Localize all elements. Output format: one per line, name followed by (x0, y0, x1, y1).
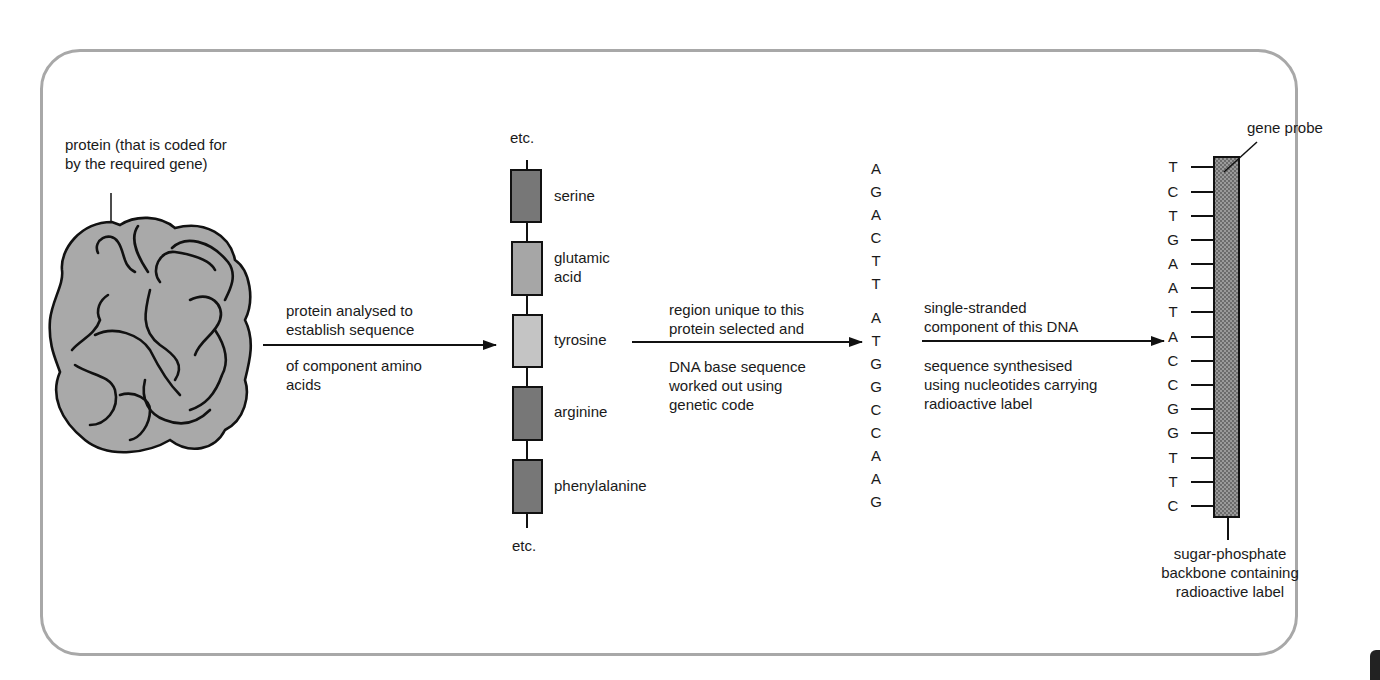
step2-below-line: worked out using (669, 376, 806, 395)
step1-above-line: establish sequence (286, 320, 414, 339)
dna-base: G (866, 354, 886, 374)
step2-below-line: genetic code (669, 395, 806, 414)
amino-acid-chain (511, 160, 542, 528)
residue-label-phenylalanine: phenylalanine (554, 476, 647, 495)
dna-base: G (866, 492, 886, 512)
chain-bottom-etc: etc. (512, 536, 536, 555)
backbone-label-line: radioactive label (1145, 582, 1315, 601)
residue-label-serine: serine (554, 186, 595, 205)
probe-base: A (1163, 254, 1183, 274)
step1-below-line: of component amino (286, 356, 422, 375)
step3-label-above: single-stranded component of this DNA (924, 298, 1078, 336)
step2-label-below: DNA base sequence worked out using genet… (669, 357, 806, 414)
probe-base: T (1163, 472, 1183, 492)
step3-label-below: sequence synthesised using nucleotides c… (924, 356, 1097, 413)
probe-base: G (1163, 230, 1183, 250)
dna-base: A (866, 205, 886, 225)
step3-above-line: component of this DNA (924, 317, 1078, 336)
dna-base: C (866, 228, 886, 248)
residue-label-glutamic-acid: glutamic acid (554, 248, 610, 286)
probe-base: T (1163, 206, 1183, 226)
backbone-label-line: backbone containing (1145, 563, 1315, 582)
step2-below-line: DNA base sequence (669, 357, 806, 376)
protein-label-line: by the required gene) (65, 154, 227, 173)
protein-label: protein (that is coded for by the requir… (65, 135, 227, 173)
step1-below-line: acids (286, 375, 422, 394)
probe-base: C (1163, 375, 1183, 395)
protein-label-line: protein (that is coded for (65, 135, 227, 154)
gene-probe-label: gene probe (1247, 118, 1323, 137)
step2-label-above: region unique to this protein selected a… (669, 300, 804, 338)
step3-below-line: using nucleotides carrying (924, 375, 1097, 394)
probe-base: A (1163, 278, 1183, 298)
dna-base: T (866, 274, 886, 294)
dna-base: A (866, 308, 886, 328)
dna-base: C (866, 423, 886, 443)
probe-base: T (1163, 448, 1183, 468)
probe-base: T (1163, 302, 1183, 322)
folded-protein-icon (50, 193, 251, 452)
step2-above-line: region unique to this (669, 300, 804, 319)
probe-base: T (1163, 157, 1183, 177)
probe-base: G (1163, 399, 1183, 419)
dna-base: A (866, 446, 886, 466)
residue-label-tyrosine: tyrosine (554, 330, 607, 349)
step2-above-line: protein selected and (669, 319, 804, 338)
gene-probe-strand (1191, 142, 1257, 540)
dna-base: C (866, 400, 886, 420)
probe-base: G (1163, 423, 1183, 443)
probe-base: C (1163, 182, 1183, 202)
step1-label-below: of component amino acids (286, 356, 422, 394)
residue-label-line: acid (554, 267, 610, 286)
step3-above-line: single-stranded (924, 298, 1078, 317)
backbone-label: sugar-phosphate backbone containing radi… (1145, 544, 1315, 601)
residue-label-line: glutamic (554, 248, 610, 267)
step3-below-line: radioactive label (924, 394, 1097, 413)
probe-base: C (1163, 351, 1183, 371)
dna-base: T (866, 331, 886, 351)
step3-below-line: sequence synthesised (924, 356, 1097, 375)
backbone-label-line: sugar-phosphate (1145, 544, 1315, 563)
step1-label-above: protein analysed to establish sequence (286, 301, 414, 339)
dna-base: G (866, 377, 886, 397)
chain-top-etc: etc. (510, 128, 534, 147)
residue-label-arginine: arginine (554, 402, 607, 421)
probe-base: A (1163, 327, 1183, 347)
dna-base: T (866, 251, 886, 271)
dna-base: A (866, 469, 886, 489)
step1-above-line: protein analysed to (286, 301, 414, 320)
dna-base: A (866, 159, 886, 179)
probe-base: C (1163, 496, 1183, 516)
dna-base: G (866, 182, 886, 202)
